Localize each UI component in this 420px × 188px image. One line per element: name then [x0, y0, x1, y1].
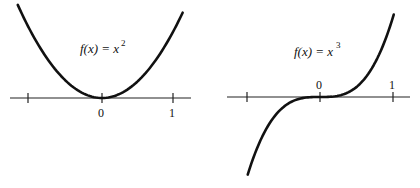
cubic-curve [248, 15, 394, 175]
panel-square: 0 1 f(x) = x 2 [10, 5, 191, 120]
tick-label-one: 1 [389, 78, 395, 92]
panel-cube: 0 1 f(x) = x 3 [227, 15, 410, 175]
tick-label-zero: 0 [316, 78, 322, 92]
formula-label: f(x) = x [80, 41, 119, 56]
formula-label: f(x) = x [294, 44, 333, 59]
function-graphs: 0 1 f(x) = x 2 0 1 f(x) = x 3 [0, 0, 420, 188]
formula-exponent: 3 [336, 40, 341, 50]
tick-label-zero: 0 [98, 106, 104, 120]
formula-text: f(x) = x [80, 41, 119, 56]
formula-text: f(x) = x [294, 44, 333, 59]
tick-label-one: 1 [169, 106, 175, 120]
formula-exponent: 2 [121, 38, 126, 48]
